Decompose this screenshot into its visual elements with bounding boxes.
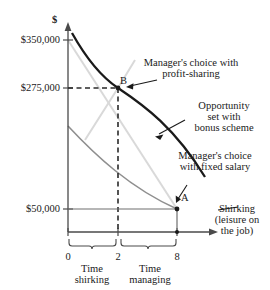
annotation-profit-sharing: Manager's choice with profit-sharing bbox=[116, 57, 266, 79]
x-axis-title-line-3: the job) bbox=[204, 225, 270, 236]
leader-arrow-profit-sharing bbox=[126, 83, 134, 89]
brace-label-time-shirking-line-2: shirking bbox=[62, 274, 122, 285]
leader-arrow-opportunity-set bbox=[155, 134, 163, 140]
x-axis-title-line-2: (leisure on bbox=[204, 214, 270, 225]
x-tick-label-0: 0 bbox=[58, 251, 78, 262]
x-tick-label-8: 8 bbox=[167, 251, 187, 262]
annotation-fixed-salary: Manager's choice with fixed salary bbox=[160, 150, 270, 172]
annotation-opportunity-set-line-2: set with bbox=[178, 111, 270, 122]
y-tick-label-50000: $50,000 bbox=[0, 203, 60, 214]
brace-time-managing bbox=[121, 239, 176, 249]
annotation-profit-sharing-line-2: profit-sharing bbox=[116, 68, 266, 79]
y-tick-label-275000: $275,000 bbox=[0, 82, 60, 93]
brace-label-time-managing-line-1: Time bbox=[118, 263, 182, 274]
annotation-fixed-salary-line-1: Manager's choice bbox=[160, 150, 270, 161]
brace-label-time-shirking-line-1: Time bbox=[62, 263, 122, 274]
y-tick-label-350000: $350,000 bbox=[0, 34, 60, 45]
y-axis-title: $ bbox=[52, 14, 57, 25]
point-label-a: A bbox=[181, 192, 189, 203]
brace-label-time-shirking: Time shirking bbox=[62, 263, 122, 285]
annotation-opportunity-set-line-3: bonus scheme bbox=[178, 122, 270, 133]
brace-time-shirking bbox=[69, 239, 116, 249]
x-axis-title-line-1: Shirking bbox=[204, 203, 270, 214]
annotation-opportunity-set: Opportunity set with bonus scheme bbox=[178, 100, 270, 133]
x-tick-label-2: 2 bbox=[108, 251, 128, 262]
brace-label-time-managing-line-2: managing bbox=[118, 274, 182, 285]
data-point-a bbox=[175, 207, 180, 212]
x-axis-title: Shirking (leisure on the job) bbox=[204, 203, 270, 236]
annotation-opportunity-set-line-1: Opportunity bbox=[178, 100, 270, 111]
brace-label-time-managing: Time managing bbox=[118, 263, 182, 285]
annotation-fixed-salary-line-2: with fixed salary bbox=[160, 161, 270, 172]
axis-marker-x8 bbox=[175, 230, 179, 234]
y-axis-arrow-icon bbox=[65, 22, 72, 31]
leader-line-profit-sharing bbox=[130, 80, 157, 86]
annotation-profit-sharing-line-1: Manager's choice with bbox=[116, 57, 266, 68]
